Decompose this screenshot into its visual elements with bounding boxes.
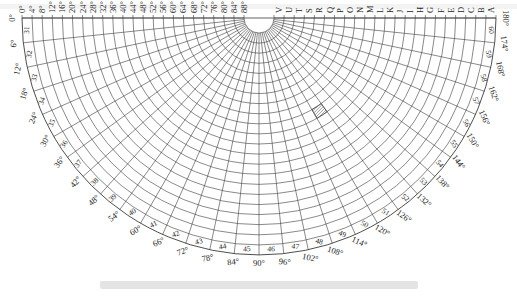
right-scale-label: S (304, 8, 314, 13)
angle-label: 126° (395, 207, 414, 225)
left-scale-label: 24° (78, 1, 88, 13)
right-scale-label: H (415, 7, 425, 13)
sector-number: 60 (487, 26, 496, 34)
angle-label: 30° (38, 133, 53, 148)
left-scale-label: 28° (88, 1, 98, 13)
left-scale-label: 40° (118, 1, 128, 13)
left-scale-label: 64° (178, 1, 188, 13)
right-scale-label: M (365, 5, 375, 13)
angle-label: 12° (11, 62, 23, 76)
sector-number: 31 (22, 26, 31, 34)
angle-label: 90° (253, 258, 265, 268)
left-scale-label: 20° (67, 1, 77, 13)
sector-number: 54 (434, 158, 446, 170)
right-scale-label: E (446, 8, 456, 13)
angle-label: 114° (350, 234, 369, 250)
angle-label: 48° (86, 192, 102, 207)
angle-label: 54° (106, 209, 122, 224)
angle-label: 102° (301, 251, 319, 264)
angle-label: 72° (175, 244, 189, 257)
left-scale-label: 0° (17, 5, 27, 13)
left-scale-label: 88° (239, 1, 249, 13)
left-scale-label: 80° (219, 1, 229, 13)
polar-grid-diagram: 0°4°8°12°16°20°24°28°32°36°40°44°48°52°5… (0, 0, 517, 297)
sector-number: 45 (243, 244, 251, 253)
right-scale-label: I (405, 10, 415, 13)
sector-number: 47 (291, 241, 300, 251)
right-scale-label: B (476, 7, 486, 13)
angle-label: 108° (326, 244, 344, 259)
angle-label: 168° (494, 60, 507, 78)
left-scale-label: 48° (138, 1, 148, 13)
right-scale-label: R (314, 7, 324, 13)
sector-number: 39 (107, 192, 119, 204)
left-scale-label: 72° (199, 1, 209, 13)
left-scale-label: 44° (128, 1, 138, 13)
left-scale-label: 4° (27, 5, 37, 13)
angle-label: 60° (128, 223, 143, 238)
angle-label: 174° (499, 35, 511, 52)
left-scale-label: 12° (47, 1, 57, 13)
angle-label: 0° (7, 14, 17, 22)
angle-label: 78° (201, 251, 215, 263)
left-scale-label: 56° (158, 1, 168, 13)
angle-label: 42° (68, 174, 83, 190)
sector-number: 46 (267, 244, 275, 253)
angle-label: 162° (487, 84, 502, 102)
sector-number: 36 (58, 138, 70, 149)
angle-label: 150° (465, 131, 482, 150)
right-scale-label: F (436, 8, 446, 13)
grid-lines (22, 15, 496, 255)
sector-number: 53 (418, 176, 430, 188)
angle-label: 144° (450, 153, 468, 172)
left-scale-label: 68° (189, 1, 199, 13)
angle-label: 24° (26, 110, 40, 125)
right-scale-label: N (355, 7, 365, 13)
right-scale-label: L (375, 8, 385, 13)
angle-label: 66° (151, 235, 166, 249)
left-scale-label: 76° (209, 1, 219, 13)
right-scale-label: C (466, 7, 476, 13)
left-scale-label: 52° (148, 1, 158, 13)
right-scale-label: U (284, 7, 294, 13)
left-scale-label: 36° (108, 1, 118, 13)
right-scale-label: V (274, 6, 284, 13)
sector-number: 32 (24, 50, 34, 59)
left-scale-label: 8° (37, 5, 47, 13)
hatched-cell (312, 104, 327, 119)
sector-number: 42 (170, 228, 180, 239)
right-scale-label: K (385, 6, 395, 13)
sector-number: 49 (337, 228, 347, 239)
right-scale-label: A (486, 6, 496, 13)
right-scale-label: J (395, 9, 405, 13)
left-scale-label: 32° (98, 1, 108, 13)
angle-label: 156° (477, 108, 493, 127)
sector-number: 38 (89, 175, 101, 187)
right-scale-label: O (345, 7, 355, 13)
left-scale-label: 60° (168, 1, 178, 13)
angle-label: 180° (501, 10, 511, 26)
sector-number: 34 (36, 95, 47, 105)
angle-label: 18° (17, 86, 30, 100)
left-scale-label: 84° (229, 1, 239, 13)
unreadable-caption (100, 281, 418, 289)
right-scale-label: G (425, 7, 435, 13)
sector-number: 33 (29, 73, 40, 83)
right-scale-label: P (335, 8, 345, 13)
right-scale-label: D (456, 7, 466, 13)
right-scale-label: Q (325, 7, 335, 13)
angle-label: 120° (373, 222, 392, 239)
sector-number: 48 (314, 236, 324, 247)
angle-label: 96° (278, 256, 291, 267)
left-scale-label: 16° (57, 1, 67, 13)
sector-number: 57 (471, 96, 482, 106)
sector-number: 37 (72, 158, 84, 170)
angle-label: 36° (52, 154, 67, 170)
angle-label: 6° (8, 39, 19, 48)
angle-label: 84° (227, 256, 240, 267)
right-scale-label: T (294, 7, 304, 13)
sector-number: 52 (400, 192, 412, 204)
